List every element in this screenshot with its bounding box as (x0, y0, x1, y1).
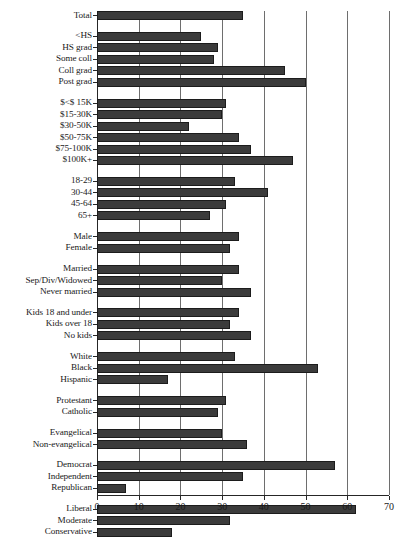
bar-gender-0 (97, 232, 239, 241)
bar-row (97, 32, 389, 41)
y-tick (93, 335, 97, 336)
bar-gender-1 (97, 244, 230, 253)
category-label: <HS (0, 31, 95, 40)
bar-party-1 (97, 472, 243, 481)
bar-row (97, 408, 389, 417)
bar-age-1 (97, 188, 268, 197)
bar-row (97, 308, 389, 317)
x-tick-40 (264, 496, 265, 500)
bar-ideology-1 (97, 516, 230, 525)
bar-row (97, 396, 389, 405)
x-tick-label-10: 10 (134, 501, 144, 513)
x-tick-70 (389, 496, 390, 500)
category-label: Non-evangelical (0, 440, 95, 449)
bar-race-0 (97, 352, 235, 361)
x-tick-label-30: 30 (217, 501, 227, 513)
category-label: 18-29 (0, 176, 95, 185)
x-tick-label-0: 0 (95, 501, 100, 513)
bar-age-3 (97, 211, 210, 220)
bar-row (97, 429, 389, 438)
category-label: Sep/Div/Widowed (0, 276, 95, 285)
y-tick (93, 532, 97, 533)
y-tick (93, 192, 97, 193)
bar-row (97, 440, 389, 449)
category-label: $15-30K (0, 110, 95, 119)
y-tick (93, 215, 97, 216)
y-tick (93, 137, 97, 138)
category-label: Independent (0, 472, 95, 481)
y-tick (93, 520, 97, 521)
x-tick-60 (347, 496, 348, 500)
y-tick (93, 476, 97, 477)
category-label: Never married (0, 287, 95, 296)
category-label: Evangelical (0, 428, 95, 437)
category-label: Total (0, 11, 95, 20)
bar-row (97, 528, 389, 537)
category-label: White (0, 352, 95, 361)
y-tick (93, 59, 97, 60)
bar-children-0 (97, 308, 239, 317)
y-tick (93, 47, 97, 48)
bar-row (97, 352, 389, 361)
y-tick (93, 412, 97, 413)
bar-row (97, 461, 389, 470)
plot-area (97, 11, 389, 495)
y-tick (93, 70, 97, 71)
x-tick-label-60: 60 (342, 501, 352, 513)
bar-religion-1 (97, 408, 218, 417)
y-tick (93, 368, 97, 369)
category-label: Moderate (0, 516, 95, 525)
bar-row (97, 110, 389, 119)
bar-education-4 (97, 78, 306, 87)
bar-education-3 (97, 66, 285, 75)
bar-row (97, 11, 389, 20)
bar-education-0 (97, 32, 201, 41)
category-label: Kids 18 and under (0, 308, 95, 317)
bar-row (97, 55, 389, 64)
bar-income-5 (97, 156, 293, 165)
bar-age-0 (97, 177, 235, 186)
y-tick (93, 181, 97, 182)
bar-religion-0 (97, 396, 226, 405)
bar-children-1 (97, 320, 230, 329)
bar-row (97, 188, 389, 197)
bar-marital-status-2 (97, 288, 251, 297)
bar-education-2 (97, 55, 214, 64)
category-label: $30-50K (0, 121, 95, 130)
x-tick-label-70: 70 (384, 501, 394, 513)
bar-row (97, 364, 389, 373)
bar-row (97, 145, 389, 154)
bar-education-1 (97, 43, 218, 52)
bar-row (97, 78, 389, 87)
bar-race-1 (97, 364, 318, 373)
bar-marital-status-1 (97, 276, 222, 285)
y-tick (93, 488, 97, 489)
x-axis-tick-labels: 010203040506070 (97, 501, 389, 515)
bar-row (97, 375, 389, 384)
x-tick-30 (222, 496, 223, 500)
category-label-column: Total<HSHS gradSome collColl gradPost gr… (0, 11, 95, 495)
bar-marital-status-0 (97, 265, 239, 274)
bar-race-2 (97, 375, 168, 384)
x-tick-label-20: 20 (175, 501, 185, 513)
y-tick (93, 236, 97, 237)
y-tick (93, 126, 97, 127)
y-tick (93, 433, 97, 434)
category-label: Some coll (0, 54, 95, 63)
bar-row (97, 265, 389, 274)
bar-row (97, 99, 389, 108)
bar-row (97, 244, 389, 253)
y-tick (93, 269, 97, 270)
y-tick (93, 103, 97, 104)
category-label: 65+ (0, 211, 95, 220)
category-label: Protestant (0, 396, 95, 405)
y-tick (93, 400, 97, 401)
bar-row (97, 200, 389, 209)
category-label: $50-75K (0, 133, 95, 142)
category-label: $<$ 15K (0, 98, 95, 107)
bar-row (97, 43, 389, 52)
x-tick-20 (180, 496, 181, 500)
bar-row (97, 288, 389, 297)
y-tick (93, 324, 97, 325)
category-label: Kids over 18 (0, 319, 95, 328)
